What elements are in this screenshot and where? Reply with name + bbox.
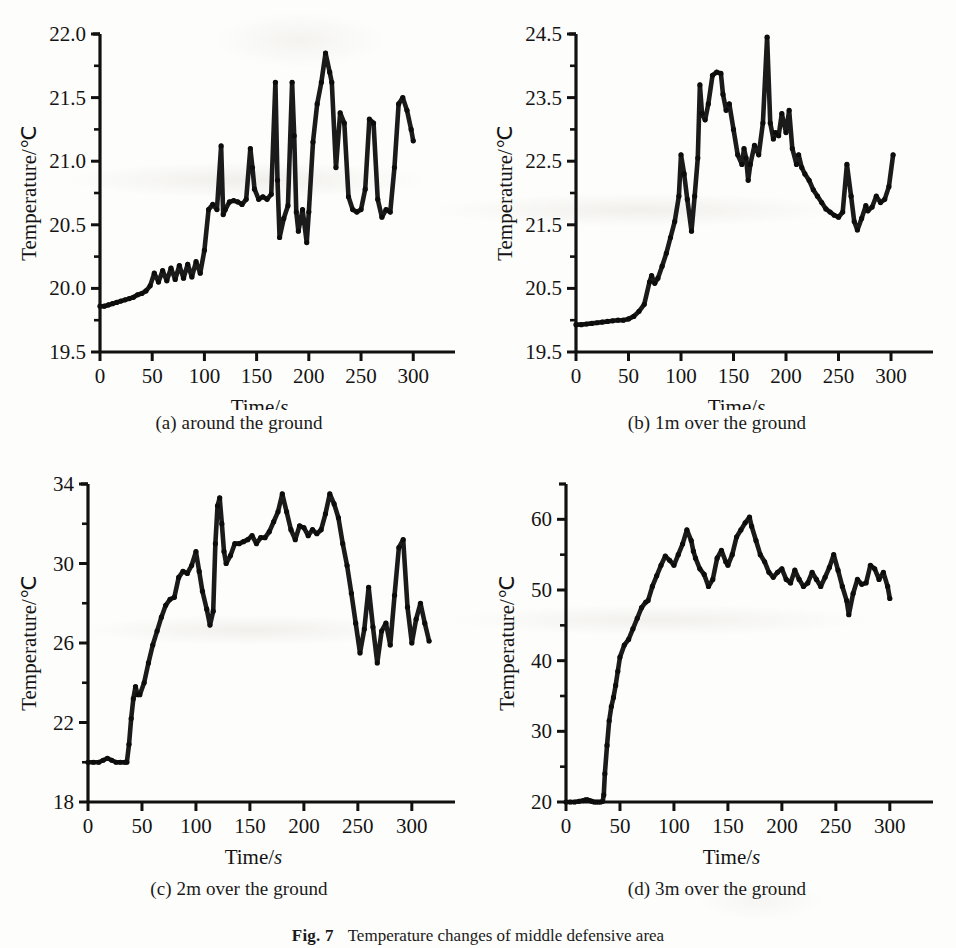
y-tick-label: 18 bbox=[53, 790, 74, 814]
figure-caption-text: Temperature changes of middle defensive … bbox=[348, 926, 664, 945]
chart-d: 2030405060050100150200250300Time/sTemper… bbox=[478, 440, 956, 870]
x-tick-label: 100 bbox=[665, 364, 697, 388]
x-tick-label: 100 bbox=[189, 364, 221, 388]
x-tick-label: 250 bbox=[823, 364, 855, 388]
y-tick-label: 21.0 bbox=[49, 149, 86, 173]
data-series-line bbox=[566, 517, 890, 802]
x-tick-label: 0 bbox=[571, 364, 582, 388]
x-tick-label: 200 bbox=[766, 814, 798, 838]
x-tick-label: 150 bbox=[234, 814, 266, 838]
y-tick-label: 26 bbox=[53, 631, 74, 655]
x-tick-label: 300 bbox=[874, 814, 906, 838]
x-tick-label: 300 bbox=[396, 814, 428, 838]
y-axis-title: Temperature/℃ bbox=[493, 125, 517, 261]
y-tick-label: 24.5 bbox=[525, 22, 562, 46]
panel-d: 2030405060050100150200250300Time/sTemper… bbox=[478, 440, 956, 898]
x-axis-title: Time/s bbox=[231, 395, 289, 410]
x-tick-label: 100 bbox=[180, 814, 212, 838]
panel-c: 1822263034050100150200250300Time/sTemper… bbox=[0, 440, 478, 898]
x-tick-label: 300 bbox=[875, 364, 907, 388]
data-series-markers bbox=[563, 515, 892, 805]
x-tick-label: 50 bbox=[131, 814, 152, 838]
x-tick-label: 150 bbox=[712, 814, 744, 838]
y-tick-label: 19.5 bbox=[525, 340, 562, 364]
x-axis-title: Time/s bbox=[703, 845, 761, 869]
y-tick-label: 20.5 bbox=[525, 276, 562, 300]
x-tick-label: 0 bbox=[95, 364, 106, 388]
y-tick-label: 23.5 bbox=[525, 86, 562, 110]
y-tick-label: 60 bbox=[531, 507, 552, 531]
data-series-markers bbox=[85, 491, 431, 765]
y-tick-label: 19.5 bbox=[49, 340, 86, 364]
x-tick-label: 0 bbox=[83, 814, 94, 838]
figure-caption: Fig. 7Temperature changes of middle defe… bbox=[0, 926, 956, 946]
y-tick-label: 21.5 bbox=[49, 86, 86, 110]
y-tick-label: 20.5 bbox=[49, 213, 86, 237]
panel-a: 19.520.020.521.021.522.00501001502002503… bbox=[0, 0, 478, 440]
x-tick-label: 150 bbox=[718, 364, 750, 388]
y-axis-title: Temperature/℃ bbox=[495, 575, 519, 711]
figure-caption-label: Fig. 7 bbox=[292, 926, 334, 945]
x-tick-label: 150 bbox=[241, 364, 273, 388]
x-tick-label: 250 bbox=[342, 814, 374, 838]
chart-a: 19.520.020.521.021.522.00501001502002503… bbox=[0, 0, 478, 410]
y-axis-title: Temperature/℃ bbox=[17, 125, 41, 261]
panel-b: 19.520.521.522.523.524.50501001502002503… bbox=[478, 0, 956, 440]
figure-panel-grid: 19.520.020.521.021.522.00501001502002503… bbox=[0, 0, 956, 948]
x-tick-label: 50 bbox=[618, 364, 639, 388]
y-tick-label: 20 bbox=[531, 790, 552, 814]
y-axis-title: Temperature/℃ bbox=[17, 575, 41, 711]
x-tick-label: 200 bbox=[288, 814, 320, 838]
x-tick-label: 0 bbox=[561, 814, 572, 838]
x-tick-label: 200 bbox=[770, 364, 802, 388]
data-series-line bbox=[88, 494, 429, 762]
y-tick-label: 22 bbox=[53, 711, 74, 735]
chart-c: 1822263034050100150200250300Time/sTemper… bbox=[0, 440, 478, 870]
chart-b: 19.520.521.522.523.524.50501001502002503… bbox=[478, 0, 956, 410]
data-series-line bbox=[576, 37, 893, 324]
y-tick-label: 20.0 bbox=[49, 276, 86, 300]
panel-b-caption: (b) 1m over the ground bbox=[478, 412, 956, 434]
y-tick-label: 40 bbox=[531, 649, 552, 673]
y-tick-label: 34 bbox=[53, 472, 75, 496]
panel-a-caption: (a) around the ground bbox=[0, 412, 478, 434]
x-tick-label: 250 bbox=[345, 364, 377, 388]
y-tick-label: 22.0 bbox=[49, 22, 86, 46]
x-tick-label: 50 bbox=[609, 814, 630, 838]
panel-d-caption: (d) 3m over the ground bbox=[478, 878, 956, 900]
x-tick-label: 200 bbox=[293, 364, 325, 388]
y-tick-label: 30 bbox=[53, 552, 74, 576]
x-axis-title: Time/s bbox=[225, 845, 283, 869]
y-tick-label: 22.5 bbox=[525, 149, 562, 173]
panel-c-caption: (c) 2m over the ground bbox=[0, 878, 478, 900]
x-tick-label: 100 bbox=[658, 814, 690, 838]
y-tick-label: 30 bbox=[531, 719, 552, 743]
x-tick-label: 300 bbox=[397, 364, 429, 388]
x-tick-label: 50 bbox=[142, 364, 163, 388]
y-tick-label: 50 bbox=[531, 578, 552, 602]
y-tick-label: 21.5 bbox=[525, 213, 562, 237]
data-series-line bbox=[100, 53, 413, 306]
x-tick-label: 250 bbox=[820, 814, 852, 838]
x-axis-title: Time/s bbox=[708, 395, 766, 410]
